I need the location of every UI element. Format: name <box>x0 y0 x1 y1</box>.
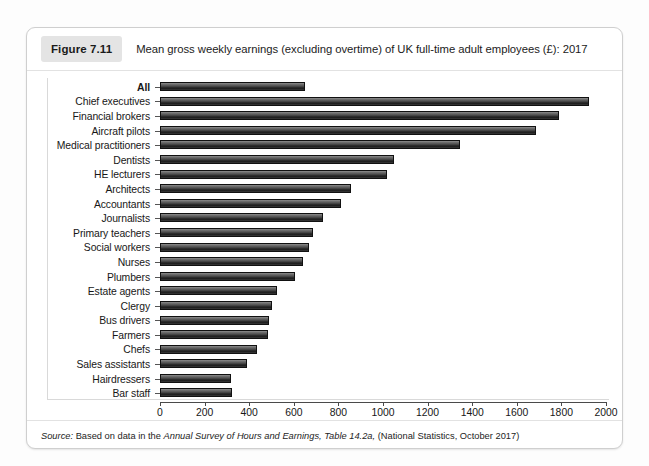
bar-track <box>160 299 624 314</box>
bar-row: Chefs <box>27 343 624 358</box>
bar-row: Accountants <box>27 197 624 212</box>
bar <box>160 374 231 383</box>
category-label: Hairdressers <box>27 374 155 385</box>
x-tick-label: 1000 <box>371 407 394 418</box>
x-tick-mark <box>160 402 161 406</box>
bar-row: Estate agents <box>27 284 624 299</box>
bar <box>160 184 351 193</box>
bar-track <box>160 168 624 183</box>
bar-track <box>160 124 624 139</box>
bar-track <box>160 372 624 387</box>
x-tick-mark <box>249 402 250 406</box>
category-label: Chefs <box>27 344 155 355</box>
bar <box>160 126 536 135</box>
bar-row: Plumbers <box>27 270 624 285</box>
bar-row: Medical practitioners <box>27 138 624 153</box>
bar-track <box>160 314 624 329</box>
figure-page: Figure 7.11 Mean gross weekly earnings (… <box>0 0 649 466</box>
category-label: Bus drivers <box>27 315 155 326</box>
category-label: Farmers <box>27 330 155 341</box>
x-tick-mark <box>561 402 562 406</box>
bar-row: Clergy <box>27 299 624 314</box>
bar-row: All <box>27 80 624 95</box>
x-tick-label: 200 <box>196 407 213 418</box>
bar-row: Farmers <box>27 328 624 343</box>
category-label: All <box>27 82 155 93</box>
category-label: Aircraft pilots <box>27 126 155 137</box>
bar-rows: AllChief executivesFinancial brokersAirc… <box>27 80 624 401</box>
bar <box>160 111 559 120</box>
bar <box>160 82 305 91</box>
bar <box>160 213 323 222</box>
source-label: Source: <box>41 431 73 441</box>
bar-track <box>160 284 624 299</box>
bar <box>160 170 387 179</box>
bar <box>160 316 269 325</box>
bar <box>160 272 295 281</box>
bar-row: Nurses <box>27 255 624 270</box>
x-tick-label: 1200 <box>416 407 439 418</box>
bar-row: Sales assistants <box>27 357 624 372</box>
bar <box>160 388 232 397</box>
x-tick-mark <box>517 402 518 406</box>
category-label: Medical practitioners <box>27 140 155 151</box>
x-tick-label: 600 <box>285 407 302 418</box>
bar-track <box>160 226 624 241</box>
bar-row: Aircraft pilots <box>27 124 624 139</box>
bar-row: HE lecturers <box>27 168 624 183</box>
x-tick-mark <box>428 402 429 406</box>
bar-row: Hairdressers <box>27 372 624 387</box>
category-label: Chief executives <box>27 96 155 107</box>
figure-header: Figure 7.11 Mean gross weekly earnings (… <box>27 28 622 70</box>
category-label: Estate agents <box>27 286 155 297</box>
bar <box>160 140 460 149</box>
chart-area: AllChief executivesFinancial brokersAirc… <box>27 72 624 405</box>
category-label: Bar staff <box>27 388 155 399</box>
category-label: Financial brokers <box>27 111 155 122</box>
category-label: Dentists <box>27 155 155 166</box>
x-tick-label: 1600 <box>505 407 528 418</box>
bar-track <box>160 138 624 153</box>
x-tick-label: 0 <box>157 407 163 418</box>
bar-track <box>160 182 624 197</box>
x-axis: 0200400600800100012001400160018002000 <box>27 402 624 428</box>
bar <box>160 257 303 266</box>
category-label: Nurses <box>27 257 155 268</box>
category-label: Architects <box>27 184 155 195</box>
bar <box>160 199 341 208</box>
bar-track <box>160 328 624 343</box>
bar-row: Social workers <box>27 241 624 256</box>
figure-number-badge: Figure 7.11 <box>41 36 122 62</box>
category-label: Journalists <box>27 213 155 224</box>
category-label: Plumbers <box>27 272 155 283</box>
category-label: Social workers <box>27 242 155 253</box>
bar <box>160 301 272 310</box>
category-label: HE lecturers <box>27 169 155 180</box>
bar-track <box>160 95 624 110</box>
bar-track <box>160 241 624 256</box>
x-tick-label: 1400 <box>461 407 484 418</box>
bar-track <box>160 255 624 270</box>
bar <box>160 330 268 339</box>
category-label: Sales assistants <box>27 359 155 370</box>
bar <box>160 228 313 237</box>
x-tick-mark <box>205 402 206 406</box>
bar <box>160 286 277 295</box>
x-tick-label: 800 <box>330 407 347 418</box>
footer-divider <box>27 420 622 421</box>
x-tick-label: 400 <box>241 407 258 418</box>
x-tick-mark <box>294 402 295 406</box>
bar-row: Journalists <box>27 211 624 226</box>
category-label: Accountants <box>27 199 155 210</box>
bar-track <box>160 386 624 401</box>
bar-row: Primary teachers <box>27 226 624 241</box>
x-tick-mark <box>383 402 384 406</box>
figure-caption: Mean gross weekly earnings (excluding ov… <box>136 43 587 55</box>
x-tick-mark <box>338 402 339 406</box>
bar <box>160 97 589 106</box>
bar-row: Architects <box>27 182 624 197</box>
x-tick-label: 1800 <box>550 407 573 418</box>
figure-container: Figure 7.11 Mean gross weekly earnings (… <box>26 27 623 449</box>
x-tick-label: 2000 <box>594 407 617 418</box>
bar-track <box>160 211 624 226</box>
